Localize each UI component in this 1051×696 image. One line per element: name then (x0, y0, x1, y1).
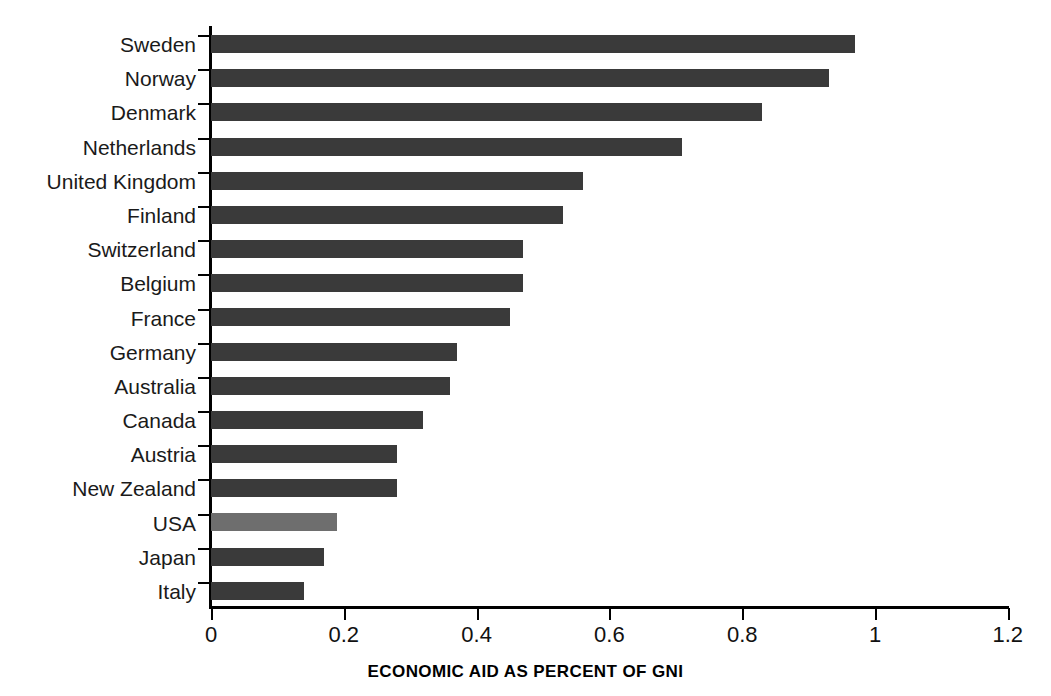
x-axis-tick-label: 1 (869, 623, 881, 647)
bar-row (211, 505, 1008, 539)
x-axis-tick-label: 0.8 (727, 623, 758, 647)
y-axis-label-japan: Japan (139, 547, 196, 568)
y-axis-label-united-kingdom: United Kingdom (47, 171, 196, 192)
bar-row (211, 164, 1008, 198)
bar-norway (211, 69, 829, 87)
bar-switzerland (211, 240, 523, 258)
bar-netherlands (211, 138, 682, 156)
y-axis-label-usa: USA (153, 513, 196, 534)
bar-canada (211, 411, 423, 429)
x-axis-title: ECONOMIC AID AS PERCENT OF GNI (0, 662, 1051, 682)
y-axis-tick (198, 240, 209, 242)
y-axis-label-netherlands: Netherlands (83, 137, 196, 158)
y-axis-label-denmark: Denmark (111, 102, 196, 123)
y-axis-label-switzerland: Switzerland (87, 239, 196, 260)
y-axis-tick (198, 548, 209, 550)
y-axis-tick (198, 274, 209, 276)
y-axis-tick (198, 445, 209, 447)
x-axis-tick (477, 608, 479, 620)
x-axis-tick (742, 608, 744, 620)
y-axis-label-canada: Canada (122, 410, 196, 431)
bar-australia (211, 377, 450, 395)
bar-row (211, 403, 1008, 437)
y-axis-tick (198, 103, 209, 105)
y-axis-label-sweden: Sweden (120, 34, 196, 55)
bar-row (211, 232, 1008, 266)
y-axis-tick (198, 343, 209, 345)
bar-austria (211, 445, 397, 463)
bar-row (211, 266, 1008, 300)
bar-united-kingdom (211, 172, 583, 190)
x-axis-tick (211, 608, 213, 620)
y-axis-tick (198, 69, 209, 71)
y-axis-label-germany: Germany (110, 342, 196, 363)
y-axis-label-new-zealand: New Zealand (72, 478, 196, 499)
x-axis-tick (344, 608, 346, 620)
bar-row (211, 335, 1008, 369)
bar-row (211, 95, 1008, 129)
bar-row (211, 130, 1008, 164)
y-axis-tick (198, 514, 209, 516)
x-axis-tick-label: 1.2 (993, 623, 1024, 647)
bar-row (211, 437, 1008, 471)
bar-chart: SwedenNorwayDenmarkNetherlandsUnited Kin… (0, 0, 1051, 696)
bar-usa (211, 513, 337, 531)
bar-denmark (211, 103, 762, 121)
y-axis-label-france: France (131, 308, 196, 329)
plot-area (211, 27, 1008, 608)
bar-japan (211, 548, 324, 566)
bar-row (211, 540, 1008, 574)
y-axis-label-norway: Norway (125, 68, 196, 89)
y-axis-label-australia: Australia (114, 376, 196, 397)
y-axis-tick (198, 582, 209, 584)
bar-row (211, 369, 1008, 403)
bar-new-zealand (211, 479, 397, 497)
y-axis-label-finland: Finland (127, 205, 196, 226)
bar-row (211, 61, 1008, 95)
y-axis-label-belgium: Belgium (120, 273, 196, 294)
y-axis-tick (198, 138, 209, 140)
bar-finland (211, 206, 563, 224)
bar-france (211, 308, 510, 326)
bar-row (211, 300, 1008, 334)
y-axis-label-italy: Italy (157, 581, 196, 602)
bar-italy (211, 582, 304, 600)
x-axis-tick-label: 0.2 (329, 623, 360, 647)
bar-row (211, 198, 1008, 232)
x-axis-tick-label: 0 (205, 623, 217, 647)
bar-germany (211, 343, 457, 361)
y-axis-label-austria: Austria (131, 444, 196, 465)
x-axis-tick-label: 0.4 (461, 623, 492, 647)
x-axis-tick (1008, 608, 1010, 620)
bar-row (211, 27, 1008, 61)
bar-row (211, 574, 1008, 608)
y-axis-tick (198, 35, 209, 37)
x-axis-tick-label: 0.6 (594, 623, 625, 647)
y-axis-tick (198, 309, 209, 311)
bar-row (211, 471, 1008, 505)
x-axis-tick (875, 608, 877, 620)
y-axis-tick (198, 172, 209, 174)
y-axis-tick (198, 479, 209, 481)
x-axis-tick (609, 608, 611, 620)
y-axis-category-labels: SwedenNorwayDenmarkNetherlandsUnited Kin… (0, 27, 196, 608)
bar-belgium (211, 274, 523, 292)
y-axis-tick (198, 411, 209, 413)
y-axis-tick (198, 206, 209, 208)
y-axis-tick (198, 377, 209, 379)
bar-sweden (211, 35, 855, 53)
